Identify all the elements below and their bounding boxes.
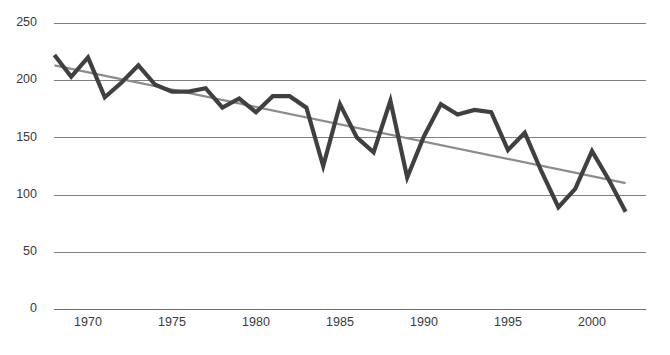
x-axis-tick-labels: 1970197519801985199019952000 (74, 315, 606, 329)
x-axis-tick-label: 1985 (326, 315, 354, 329)
y-axis-tick-label: 100 (16, 187, 37, 201)
y-axis-tick-label: 150 (16, 130, 37, 144)
gridlines (54, 24, 646, 310)
chart-container: 250200150100500 197019751980198519901995… (0, 0, 670, 355)
x-axis-tick-label: 1980 (242, 315, 270, 329)
y-axis-tick-label: 200 (16, 72, 37, 86)
x-axis-tick-label: 1970 (74, 315, 102, 329)
x-axis-tick-label: 1990 (410, 315, 438, 329)
y-axis-tick-label: 0 (30, 301, 37, 315)
data-series-line (54, 55, 625, 212)
line-chart: 250200150100500 197019751980198519901995… (0, 0, 670, 355)
y-axis-tick-label: 250 (16, 15, 37, 29)
x-axis-tick-label: 2000 (578, 315, 606, 329)
y-axis-tick-label: 50 (23, 244, 37, 258)
x-axis-tick-label: 1995 (494, 315, 522, 329)
y-axis-tick-labels: 250200150100500 (16, 15, 37, 315)
x-axis-tick-label: 1975 (158, 315, 186, 329)
